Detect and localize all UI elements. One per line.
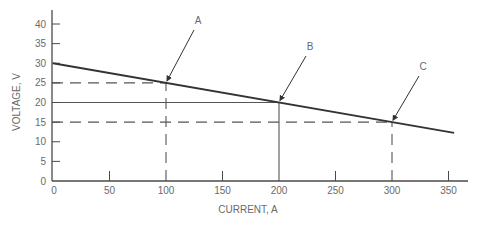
y-tick-label: 0 bbox=[40, 176, 46, 187]
annotation-label-b: B bbox=[307, 41, 314, 52]
x-tick-label: 250 bbox=[327, 185, 344, 196]
y-tick-label: 25 bbox=[35, 77, 47, 88]
annotation-arrow-c bbox=[393, 76, 419, 120]
x-tick-label: 100 bbox=[158, 185, 175, 196]
x-tick-label: 150 bbox=[214, 185, 231, 196]
chart-canvas: 0510152025303540050100150200250300350 AB… bbox=[0, 0, 480, 229]
annotation-label-a: A bbox=[195, 15, 202, 26]
x-tick-label: 50 bbox=[104, 185, 116, 196]
y-tick-label: 20 bbox=[35, 97, 47, 108]
y-tick-label: 15 bbox=[35, 117, 47, 128]
x-tick-label: 0 bbox=[51, 185, 57, 196]
y-tick-label: 5 bbox=[40, 156, 46, 167]
reference-lines bbox=[52, 83, 392, 181]
voltage-current-chart: 0510152025303540050100150200250300350 AB… bbox=[0, 0, 480, 229]
y-tick-label: 35 bbox=[35, 38, 47, 49]
y-axis-label: VOLTAGE, V bbox=[11, 73, 22, 131]
x-tick-label: 200 bbox=[271, 185, 288, 196]
x-tick-label: 350 bbox=[440, 185, 457, 196]
annotations: ABC bbox=[167, 15, 427, 120]
x-axis-label: CURRENT, A bbox=[218, 204, 278, 215]
annotation-arrow-a bbox=[167, 30, 194, 81]
y-tick-label: 40 bbox=[35, 19, 47, 30]
x-tick-label: 300 bbox=[384, 185, 401, 196]
annotation-arrow-b bbox=[280, 56, 306, 101]
annotation-label-c: C bbox=[419, 61, 426, 72]
y-tick-label: 10 bbox=[35, 136, 47, 147]
y-tick-label: 30 bbox=[35, 58, 47, 69]
